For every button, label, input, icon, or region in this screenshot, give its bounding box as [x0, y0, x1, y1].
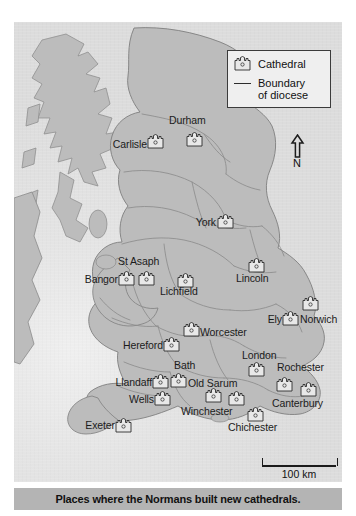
map-label-london: London — [242, 350, 276, 361]
map-label-canterbury: Canterbury — [272, 398, 323, 409]
legend-label-cathedral: Cathedral — [258, 58, 306, 70]
north-arrow: N — [284, 134, 310, 169]
anglesey — [96, 255, 116, 269]
cathedral-icon-old-sarum — [205, 388, 222, 403]
map-label-ely: Ely — [268, 314, 282, 325]
cathedral-icon-worcester — [183, 322, 200, 337]
map-label-york: York — [196, 217, 216, 228]
map-label-winchester: Winchester — [181, 406, 233, 417]
cathedral-icon-carlisle — [147, 134, 164, 149]
map-label-llandaff: Llandaff — [116, 377, 152, 388]
cathedral-icon-london — [248, 362, 265, 377]
map-figure: Carlisle Durham York St Asaph Bangor Lic… — [0, 0, 356, 516]
map-label-carlisle: Carlisle — [113, 139, 147, 150]
map-label-bangor: Bangor — [85, 274, 118, 285]
scale-bar-graphic — [262, 458, 336, 467]
cathedral-icon-norwich — [302, 296, 319, 311]
cathedral-icon-york — [217, 214, 234, 229]
map-label-st-asaph: St Asaph — [118, 256, 159, 267]
map-label-lichfield: Lichfield — [160, 286, 198, 297]
map-label-rochester: Rochester — [277, 362, 324, 373]
boundary-line-icon — [234, 77, 251, 92]
caption-bar: Places where the Normans built new cathe… — [14, 488, 342, 510]
map-label-bath: Bath — [174, 360, 195, 371]
cathedral-icon — [234, 56, 251, 71]
cathedral-icon-chichester — [247, 407, 264, 422]
map-legend: Cathedral Boundary of diocese — [227, 50, 331, 108]
cathedral-icon-ely — [282, 311, 299, 326]
ireland-edge — [14, 192, 42, 364]
map-label-durham: Durham — [169, 115, 206, 126]
cathedral-icon-canterbury — [300, 382, 317, 397]
map-label-wells: Wells — [129, 394, 154, 405]
map-label-exeter: Exeter — [85, 420, 115, 431]
cathedral-icon-durham — [186, 132, 203, 147]
cathedral-icon-hereford — [163, 337, 180, 352]
legend-label-boundary-line1: Boundary — [258, 77, 308, 89]
legend-label-boundary: Boundary of diocese — [258, 77, 308, 101]
cathedral-icon-llandaff — [152, 374, 169, 389]
north-arrow-icon — [290, 134, 305, 158]
cathedral-icon-winchester — [228, 391, 245, 406]
cathedral-icon-bath — [170, 373, 187, 388]
cathedral-icon-st-asaph — [138, 271, 155, 286]
cathedral-icon-rochester — [276, 377, 293, 392]
cathedral-icon-wells — [154, 391, 171, 406]
map-label-norwich: Norwich — [300, 314, 337, 325]
map-label-hereford: Hereford — [123, 340, 163, 351]
map-label-chichester: Chichester — [228, 422, 277, 433]
map-label-lincoln: Lincoln — [236, 273, 269, 284]
legend-label-boundary-line2: of diocese — [258, 89, 308, 101]
caption-text: Places where the Normans built new cathe… — [56, 493, 301, 505]
legend-row-cathedral: Cathedral — [234, 56, 306, 71]
cathedral-icon-lincoln — [248, 258, 265, 273]
map-plate: Carlisle Durham York St Asaph Bangor Lic… — [14, 22, 342, 482]
legend-row-boundary: Boundary of diocese — [234, 77, 308, 101]
scale-bar: 100 km — [262, 458, 336, 480]
map-label-old-sarum: Old Sarum — [188, 378, 237, 389]
north-arrow-label: N — [284, 157, 310, 169]
cathedral-icon-bangor — [118, 271, 135, 286]
scale-bar-label: 100 km — [262, 468, 336, 480]
isle-of-man — [89, 210, 107, 238]
cathedral-icon-exeter — [115, 418, 132, 433]
map-label-worcester: Worcester — [200, 327, 247, 338]
